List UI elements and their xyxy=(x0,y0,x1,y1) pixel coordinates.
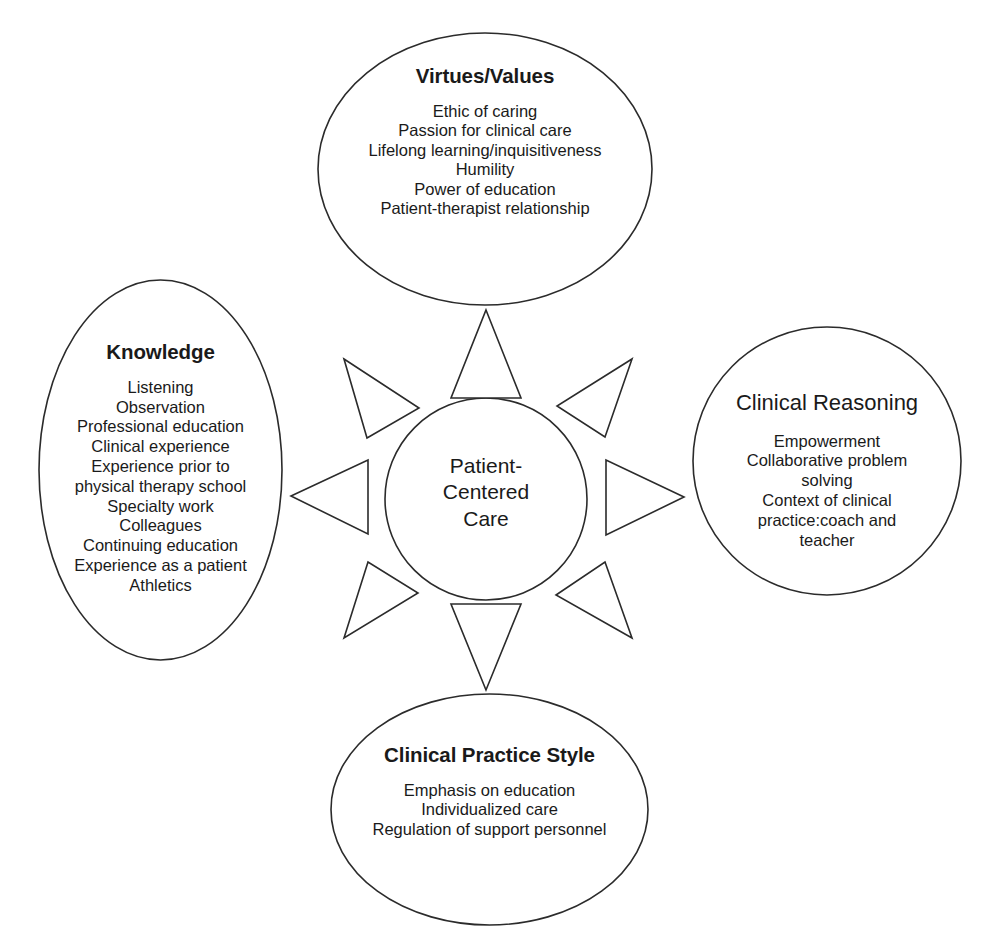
list-item: Professional education xyxy=(39,417,282,437)
arrow-down-left-icon xyxy=(344,562,418,638)
arrow-down-right-icon xyxy=(556,562,632,638)
list-item: Athletics xyxy=(39,576,282,596)
list-item: Ethic of caring xyxy=(318,102,652,121)
node-title-virtues-values: Virtues/Values xyxy=(318,64,652,88)
center-label-line-1: Patient- xyxy=(386,453,586,479)
diagram-canvas: Virtues/Values Ethic of caring Passion f… xyxy=(0,0,982,943)
list-item: Colleagues xyxy=(39,516,282,536)
arrow-up-right-icon xyxy=(557,359,632,437)
list-item: Patient-therapist relationship xyxy=(318,199,652,218)
list-item: Continuing education xyxy=(39,536,282,556)
node-label-clinical-reasoning: Clinical Reasoning Empowerment Collabora… xyxy=(693,390,961,550)
list-item: teacher xyxy=(693,531,961,551)
list-item: Passion for clinical care xyxy=(318,121,652,140)
node-items-clinical-reasoning: Empowerment Collaborative problem solvin… xyxy=(693,432,961,551)
node-items-virtues-values: Ethic of caring Passion for clinical car… xyxy=(318,102,652,219)
list-item: Lifelong learning/inquisitiveness xyxy=(318,141,652,160)
list-item: Listening xyxy=(39,378,282,398)
arrow-up-icon xyxy=(451,310,521,398)
node-items-clinical-practice-style: Emphasis on education Individualized car… xyxy=(331,781,648,839)
list-item: Specialty work xyxy=(39,497,282,517)
list-item: Experience as a patient xyxy=(39,556,282,576)
list-item: practice:coach and xyxy=(693,511,961,531)
node-label-patient-centered-care: Patient- Centered Care xyxy=(386,453,586,532)
node-title-knowledge: Knowledge xyxy=(39,340,282,364)
list-item: Empowerment xyxy=(693,432,961,452)
list-item: Regulation of support personnel xyxy=(331,820,648,839)
list-item: Power of education xyxy=(318,180,652,199)
list-item: physical therapy school xyxy=(39,477,282,497)
list-item: Humility xyxy=(318,160,652,179)
list-item: Experience prior to xyxy=(39,457,282,477)
arrow-down-icon xyxy=(451,604,521,690)
node-label-clinical-practice-style: Clinical Practice Style Emphasis on educ… xyxy=(331,743,648,839)
list-item: Individualized care xyxy=(331,800,648,819)
arrow-right-icon xyxy=(606,460,684,535)
list-item: solving xyxy=(693,471,961,491)
list-item: Context of clinical xyxy=(693,491,961,511)
node-label-knowledge: Knowledge Listening Observation Professi… xyxy=(39,340,282,596)
node-title-clinical-reasoning: Clinical Reasoning xyxy=(693,390,961,416)
list-item: Observation xyxy=(39,398,282,418)
arrow-up-left-icon xyxy=(344,359,419,438)
node-label-virtues-values: Virtues/Values Ethic of caring Passion f… xyxy=(318,64,652,219)
arrow-left-icon xyxy=(291,460,368,534)
list-item: Collaborative problem xyxy=(693,451,961,471)
center-label-line-3: Care xyxy=(386,506,586,532)
node-items-knowledge: Listening Observation Professional educa… xyxy=(39,378,282,596)
list-item: Emphasis on education xyxy=(331,781,648,800)
list-item: Clinical experience xyxy=(39,437,282,457)
center-label-line-2: Centered xyxy=(386,479,586,505)
node-title-clinical-practice-style: Clinical Practice Style xyxy=(331,743,648,767)
